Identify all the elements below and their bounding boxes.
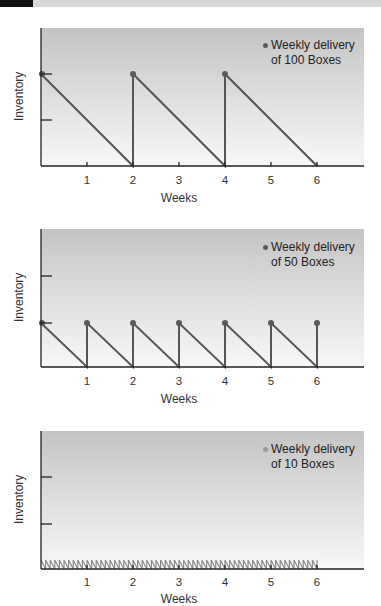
y-axis-label: Inventory: [12, 71, 26, 121]
x-tick-2: 2: [123, 576, 143, 588]
legend-dot-icon: [263, 43, 268, 48]
x-tick-3: 3: [169, 174, 189, 186]
x-tick-1: 1: [77, 174, 97, 186]
x-tick-1: 1: [77, 576, 97, 588]
x-tick-5: 5: [261, 576, 281, 588]
legend-dot-icon: [263, 447, 268, 452]
x-tick-4: 4: [215, 375, 235, 387]
x-axis-label: Weeks: [139, 592, 219, 606]
x-tick-6: 6: [307, 576, 327, 588]
legend-line-1: Weekly delivery: [271, 240, 355, 255]
x-tick-5: 5: [261, 375, 281, 387]
chart-10-boxes: Inventory 1 2 3 4 5 6 Weeks Weekly deliv…: [0, 403, 381, 606]
legend-line-2: of 100 Boxes: [271, 53, 355, 68]
x-tick-6: 6: [307, 174, 327, 186]
chart-100-boxes: Inventory 1 2 3 4 5 6 Weeks Weekly deliv…: [0, 0, 381, 210]
legend: Weekly delivery of 100 Boxes: [271, 38, 355, 68]
legend-line-2: of 10 Boxes: [271, 457, 355, 472]
x-tick-3: 3: [169, 375, 189, 387]
x-tick-5: 5: [261, 174, 281, 186]
legend: Weekly delivery of 50 Boxes: [271, 240, 355, 270]
y-axis-label: Inventory: [12, 474, 26, 524]
legend-line-1: Weekly delivery: [271, 442, 355, 457]
x-tick-2: 2: [123, 174, 143, 186]
x-tick-3: 3: [169, 576, 189, 588]
x-tick-4: 4: [215, 576, 235, 588]
y-axis-label: Inventory: [12, 272, 26, 322]
legend-line-1: Weekly delivery: [271, 38, 355, 53]
legend-line-2: of 50 Boxes: [271, 255, 355, 270]
x-tick-6: 6: [307, 375, 327, 387]
chart-50-boxes: Inventory 1 2 3 4 5 6 Weeks Weekly deliv…: [0, 201, 381, 411]
legend: Weekly delivery of 10 Boxes: [271, 442, 355, 472]
x-tick-4: 4: [215, 174, 235, 186]
x-tick-1: 1: [77, 375, 97, 387]
legend-dot-icon: [263, 245, 268, 250]
x-tick-2: 2: [123, 375, 143, 387]
